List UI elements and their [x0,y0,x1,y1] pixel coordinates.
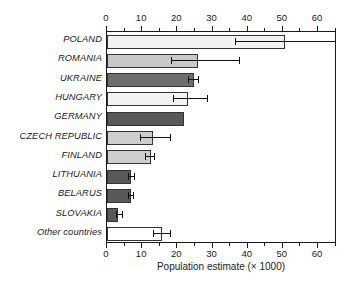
category-label: HUNGARY [0,92,102,102]
error-bar-cap [140,134,141,141]
error-bar-cap [116,211,117,218]
category-label: POLAND [0,34,102,44]
error-bar-cap [128,192,129,199]
axis-tick-label: 10 [129,248,153,259]
error-bar-cap [235,38,236,45]
error-bar [145,156,154,157]
error-bar [140,137,170,138]
category-label: CZECH REPUBLIC [0,131,102,141]
error-bar-cap [170,230,171,237]
bar [107,92,188,106]
error-bar-cap [188,76,189,83]
error-bar-cap [154,153,155,160]
category-label: GERMANY [0,111,102,121]
bar [107,150,151,164]
axis-minor-tick [335,243,336,246]
error-bar [173,98,206,99]
x-axis-title: Population estimate (× 1000) [106,261,336,272]
category-label: UKRAINE [0,73,102,83]
bar [107,131,153,145]
category-label: LITHUANIA [0,169,102,179]
category-label: Other countries [0,227,102,237]
axis-tick-label: 20 [164,248,188,259]
error-bar-cap [239,57,240,64]
axis-tick-label: 20 [164,12,188,23]
bar [107,73,194,87]
error-bar [171,60,238,61]
axis-tick-label: 50 [270,12,294,23]
bar [107,112,184,126]
axis-tick-label: 0 [94,248,118,259]
error-bar-cap [170,134,171,141]
axis-tick-label: 30 [200,12,224,23]
axis-minor-tick [159,243,160,246]
error-bar [188,79,199,80]
category-label: ROMANIA [0,53,102,63]
axis-tick-label: 60 [305,12,329,23]
category-label: FINLAND [0,150,102,160]
axis-minor-tick [264,243,265,246]
plot-area [106,31,336,243]
error-bar-cap [128,173,129,180]
error-bar [153,233,170,234]
axis-minor-tick [229,243,230,246]
error-bar-cap [173,95,174,102]
axis-tick-label: 30 [200,248,224,259]
category-axis-labels: POLANDROMANIAUKRAINEHUNGARYGERMANYCZECH … [0,0,104,288]
error-bar-cap [122,211,123,218]
category-label: SLOVAKIA [0,208,102,218]
horizontal-bar-chart: POLANDROMANIAUKRAINEHUNGARYGERMANYCZECH … [0,0,353,288]
error-bar [235,41,336,42]
axis-minor-tick [299,243,300,246]
error-bar-cap [153,230,154,237]
axis-minor-tick [124,243,125,246]
error-bar-cap [134,173,135,180]
error-bar-cap [145,153,146,160]
axis-tick-label: 0 [94,12,118,23]
category-label: BELARUS [0,188,102,198]
axis-tick-label: 40 [235,248,259,259]
error-bar-cap [198,76,199,83]
error-bar-cap [207,95,208,102]
error-bar-cap [171,57,172,64]
error-bar-cap [133,192,134,199]
axis-tick-label: 40 [235,12,259,23]
axis-tick-label: 50 [270,248,294,259]
axis-tick-label: 60 [305,248,329,259]
axis-tick-label: 10 [129,12,153,23]
axis-minor-tick [194,243,195,246]
